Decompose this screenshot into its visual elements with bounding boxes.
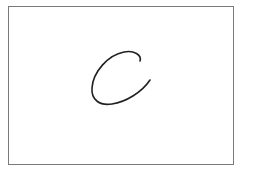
- handwritten-c-glyph: [0, 0, 253, 173]
